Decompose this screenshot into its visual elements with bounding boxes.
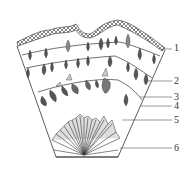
label-5: 5 xyxy=(174,115,179,125)
surface-layer xyxy=(17,20,165,51)
structures-row-3 xyxy=(41,68,128,106)
label-4: 4 xyxy=(174,101,179,111)
diagram-figure xyxy=(0,0,192,170)
label-2: 2 xyxy=(174,76,179,86)
structures-row-1 xyxy=(29,34,156,64)
label-1: 1 xyxy=(174,43,179,53)
label-6: 6 xyxy=(174,143,179,153)
